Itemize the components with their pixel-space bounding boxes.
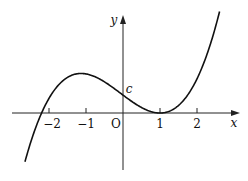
cubic-curve: [25, 12, 220, 162]
origin-label: O: [111, 117, 121, 131]
tick-label-minus-1: −1: [77, 117, 95, 131]
y-axis-arrow-icon: [120, 15, 126, 24]
tick-label-2: 2: [193, 117, 201, 131]
x-axis-label: x: [231, 116, 238, 130]
y-axis-label: y: [110, 13, 118, 27]
tick-label-1: 1: [156, 117, 164, 131]
tick-label-minus-2: −2: [43, 117, 61, 131]
intercept-label-c: c: [126, 82, 133, 96]
cubic-graph: −2 −1 O 1 2 x y c: [0, 0, 248, 181]
